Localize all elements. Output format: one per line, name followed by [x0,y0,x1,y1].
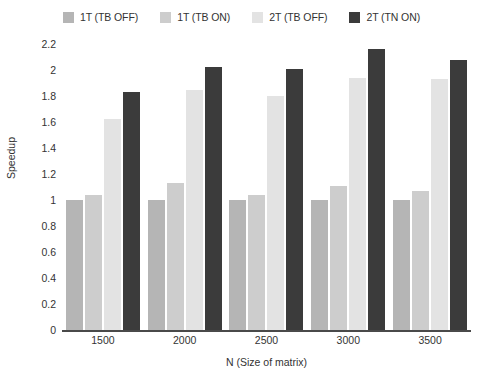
x-axis-tick-label: 2500 [226,334,308,346]
y-axis-tick-label: 0.2 [41,299,56,310]
plot-area [62,44,471,332]
bar-chart: 1T (TB OFF) 1T (TB ON) 2T (TB OFF) 2T (T… [0,0,483,379]
legend-label-1t-tb-on: 1T (TB ON) [177,12,230,23]
bar[interactable] [330,186,347,330]
bar[interactable] [66,200,83,330]
bar-group [389,44,471,330]
legend-swatch-1t-tb-on [160,12,171,23]
x-axis-tick-label: 1500 [62,334,144,346]
legend-label-2t-tb-off: 2T (TB OFF) [269,12,327,23]
y-axis-tick-label: 1.4 [41,143,56,154]
bar[interactable] [229,200,246,330]
bar[interactable] [368,49,385,330]
bar[interactable] [412,191,429,330]
x-axis-title: N (Size of matrix) [62,356,471,368]
legend-swatch-1t-tb-off [63,12,74,23]
bar[interactable] [450,60,467,330]
y-axis-ticks: 2.221.81.61.41.210.80.60.40.20 [26,44,56,330]
legend-item-2t-tn-on: 2T (TN ON) [349,12,420,23]
y-axis-tick-label: 1 [50,195,56,206]
y-axis-tick-label: 2.2 [41,39,56,50]
bar-group [62,44,144,330]
y-axis-tick-label: 1.2 [41,169,56,180]
bar[interactable] [104,119,121,330]
bar[interactable] [205,67,222,330]
chart-legend: 1T (TB OFF) 1T (TB ON) 2T (TB OFF) 2T (T… [0,12,483,23]
x-axis-tick-label: 3500 [389,334,471,346]
y-axis-tick-label: 0.8 [41,221,56,232]
bar[interactable] [248,195,265,330]
y-axis-tick-label: 0.6 [41,247,56,258]
bar-groups [62,44,471,330]
legend-swatch-2t-tn-on [349,12,360,23]
plot-wrapper: Speedup 2.221.81.61.41.210.80.60.40.20 1… [0,44,483,344]
bar[interactable] [311,200,328,330]
bar[interactable] [123,92,140,330]
legend-item-2t-tb-off: 2T (TB OFF) [252,12,327,23]
x-axis-ticks: 15002000250030003500 [62,334,471,346]
bar[interactable] [148,200,165,330]
y-axis-tick-label: 0.4 [41,273,56,284]
bar[interactable] [267,96,284,330]
legend-label-2t-tn-on: 2T (TN ON) [366,12,420,23]
x-axis-tick-label: 2000 [144,334,226,346]
y-axis-tick-label: 1.6 [41,117,56,128]
bar[interactable] [431,79,448,330]
legend-label-1t-tb-off: 1T (TB OFF) [80,12,138,23]
legend-item-1t-tb-off: 1T (TB OFF) [63,12,138,23]
y-axis-title: Speedup [5,113,17,203]
bar[interactable] [286,69,303,330]
bar[interactable] [85,195,102,330]
y-axis-tick-label: 0 [50,325,56,336]
bar-group [144,44,226,330]
y-axis-tick-label: 1.8 [41,91,56,102]
bar[interactable] [393,200,410,330]
bar-group [307,44,389,330]
bar-group [226,44,308,330]
legend-swatch-2t-tb-off [252,12,263,23]
legend-item-1t-tb-on: 1T (TB ON) [160,12,230,23]
bar[interactable] [186,90,203,331]
bar[interactable] [349,78,366,330]
x-axis-tick-label: 3000 [307,334,389,346]
y-axis-tick-label: 2 [50,65,56,76]
bar[interactable] [167,183,184,330]
